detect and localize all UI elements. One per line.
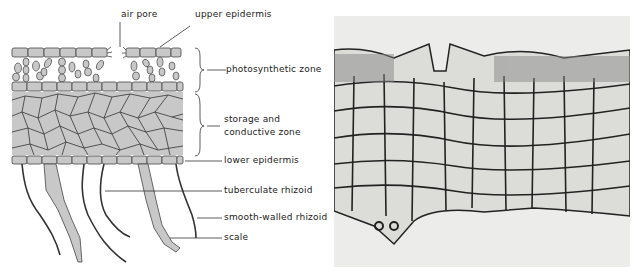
- label-lower-epidermis: lower epidermis: [224, 155, 299, 165]
- scale-filaments: [44, 164, 180, 262]
- label-smooth-walled-rhizoid: smooth-walled rhizoid: [224, 212, 327, 222]
- lower-epidermis: [12, 156, 183, 164]
- upper-epidermis: [12, 48, 181, 57]
- label-tuberculate-rhizoid: tuberculate rhizoid: [224, 185, 313, 195]
- label-upper-epidermis: upper epidermis: [195, 9, 272, 19]
- label-photosynthetic-zone: photosynthetic zone: [226, 64, 322, 74]
- storage-zone: [12, 92, 183, 155]
- label-air-pore: air pore: [121, 9, 157, 19]
- label-scale: scale: [224, 232, 248, 242]
- thallus-cross-section-diagram: [0, 0, 330, 277]
- label-storage-line1: storage and: [224, 114, 280, 124]
- micrograph-photo: [334, 16, 630, 267]
- label-storage-line2: conductive zone: [224, 127, 301, 137]
- photosynthetic-filaments: [13, 57, 180, 82]
